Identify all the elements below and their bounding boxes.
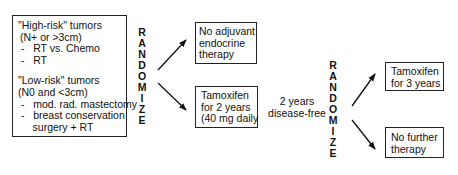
arrow-up-icon [158,40,186,70]
arrow-up-icon [352,74,375,106]
arrow-down-icon [352,120,375,149]
arrow-down-icon [158,83,186,110]
arrows-layer [0,0,458,175]
